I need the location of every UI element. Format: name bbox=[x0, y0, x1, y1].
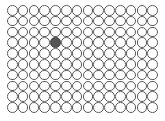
empty-circle bbox=[83, 81, 94, 92]
empty-circle bbox=[29, 16, 40, 27]
empty-circle bbox=[29, 27, 40, 38]
empty-circle bbox=[7, 48, 18, 59]
empty-circle bbox=[137, 102, 148, 113]
empty-circle bbox=[50, 27, 61, 38]
empty-circle bbox=[29, 59, 40, 70]
empty-circle bbox=[83, 37, 94, 48]
empty-circle bbox=[61, 59, 72, 70]
empty-circle bbox=[50, 81, 61, 92]
empty-circle bbox=[7, 70, 18, 81]
empty-circle bbox=[18, 70, 29, 81]
empty-circle bbox=[72, 91, 83, 102]
empty-circle bbox=[61, 91, 72, 102]
empty-circle bbox=[93, 81, 104, 92]
empty-circle bbox=[126, 59, 137, 70]
empty-circle bbox=[39, 16, 50, 27]
empty-circle bbox=[83, 91, 94, 102]
empty-circle bbox=[137, 5, 148, 16]
empty-circle bbox=[147, 59, 158, 70]
empty-circle bbox=[72, 37, 83, 48]
empty-circle bbox=[7, 16, 18, 27]
empty-circle bbox=[104, 91, 115, 102]
empty-circle bbox=[29, 70, 40, 81]
empty-circle bbox=[7, 59, 18, 70]
empty-circle bbox=[104, 37, 115, 48]
empty-circle bbox=[83, 16, 94, 27]
empty-circle bbox=[18, 27, 29, 38]
empty-circle bbox=[137, 48, 148, 59]
empty-circle bbox=[61, 5, 72, 16]
empty-circle bbox=[147, 27, 158, 38]
empty-circle bbox=[115, 37, 126, 48]
empty-circle bbox=[7, 27, 18, 38]
empty-circle bbox=[104, 5, 115, 16]
empty-circle bbox=[115, 59, 126, 70]
empty-circle bbox=[104, 59, 115, 70]
empty-circle bbox=[7, 102, 18, 113]
empty-circle bbox=[29, 48, 40, 59]
empty-circle bbox=[104, 27, 115, 38]
empty-circle bbox=[50, 59, 61, 70]
empty-circle bbox=[104, 102, 115, 113]
empty-circle bbox=[72, 5, 83, 16]
empty-circle bbox=[93, 48, 104, 59]
empty-circle bbox=[18, 81, 29, 92]
empty-circle bbox=[93, 91, 104, 102]
empty-circle bbox=[126, 27, 137, 38]
empty-circle bbox=[72, 70, 83, 81]
empty-circle bbox=[29, 102, 40, 113]
empty-circle bbox=[147, 91, 158, 102]
empty-circle bbox=[137, 59, 148, 70]
empty-circle bbox=[126, 70, 137, 81]
empty-circle bbox=[72, 48, 83, 59]
empty-circle bbox=[137, 27, 148, 38]
empty-circle bbox=[61, 37, 72, 48]
empty-circle bbox=[137, 70, 148, 81]
empty-circle bbox=[50, 102, 61, 113]
empty-circle bbox=[50, 48, 61, 59]
empty-circle bbox=[61, 16, 72, 27]
empty-circle bbox=[147, 81, 158, 92]
empty-circle bbox=[147, 70, 158, 81]
empty-circle bbox=[93, 5, 104, 16]
empty-circle bbox=[39, 91, 50, 102]
empty-circle bbox=[50, 91, 61, 102]
empty-circle bbox=[72, 102, 83, 113]
empty-circle bbox=[50, 5, 61, 16]
empty-circle bbox=[18, 48, 29, 59]
empty-circle bbox=[39, 5, 50, 16]
empty-circle bbox=[115, 5, 126, 16]
empty-circle bbox=[72, 16, 83, 27]
empty-circle bbox=[137, 16, 148, 27]
empty-circle bbox=[83, 5, 94, 16]
empty-circle bbox=[29, 5, 40, 16]
empty-circle bbox=[83, 59, 94, 70]
empty-circle bbox=[147, 16, 158, 27]
empty-circle bbox=[115, 70, 126, 81]
empty-circle bbox=[50, 70, 61, 81]
empty-circle bbox=[115, 102, 126, 113]
empty-circle bbox=[83, 48, 94, 59]
empty-circle bbox=[7, 81, 18, 92]
empty-circle bbox=[147, 102, 158, 113]
empty-circle bbox=[7, 5, 18, 16]
empty-circle bbox=[147, 48, 158, 59]
empty-circle bbox=[39, 59, 50, 70]
empty-circle bbox=[126, 81, 137, 92]
empty-circle bbox=[61, 81, 72, 92]
empty-circle bbox=[93, 70, 104, 81]
empty-circle bbox=[83, 102, 94, 113]
empty-circle bbox=[126, 48, 137, 59]
empty-circle bbox=[126, 37, 137, 48]
empty-circle bbox=[39, 27, 50, 38]
empty-circle bbox=[126, 5, 137, 16]
empty-circle bbox=[115, 81, 126, 92]
empty-circle bbox=[18, 91, 29, 102]
empty-circle bbox=[83, 70, 94, 81]
empty-circle bbox=[137, 91, 148, 102]
empty-circle bbox=[104, 48, 115, 59]
empty-circle bbox=[39, 102, 50, 113]
empty-circle bbox=[126, 16, 137, 27]
empty-circle bbox=[115, 27, 126, 38]
empty-circle bbox=[126, 91, 137, 102]
